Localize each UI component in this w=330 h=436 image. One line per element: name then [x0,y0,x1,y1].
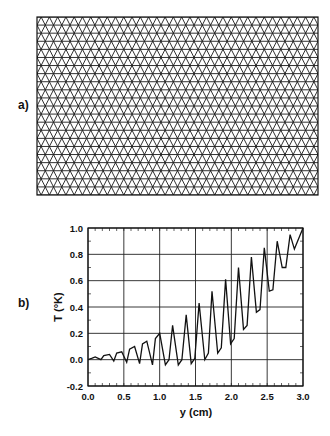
chart-grid [88,228,303,386]
chart-ticks: 0.00.51.01.52.02.53.0-0.20.00.20.40.60.8… [67,223,310,403]
y-tick-label: -0.2 [67,381,83,392]
y-tick-label: 0.8 [70,249,83,260]
x-tick-label: 0.0 [81,391,94,402]
x-tick-label: 1.0 [153,391,166,402]
y-axis-title: T (°K) [52,292,64,322]
y-tick-label: 0.4 [70,302,84,313]
y-tick-label: 0.2 [70,328,83,339]
y-tick-label: 0.6 [70,275,83,286]
x-tick-label: 3.0 [296,391,309,402]
x-tick-label: 2.5 [261,391,275,402]
y-tick-label: 0.0 [70,354,83,365]
x-tick-label: 0.5 [117,391,131,402]
x-tick-label: 1.5 [189,391,203,402]
x-axis-title: y (cm) [180,406,213,418]
y-tick-label: 1.0 [70,223,83,234]
x-tick-label: 2.0 [225,391,238,402]
temperature-line-chart: 0.00.51.01.52.02.53.0-0.20.00.20.40.60.8… [0,0,330,436]
